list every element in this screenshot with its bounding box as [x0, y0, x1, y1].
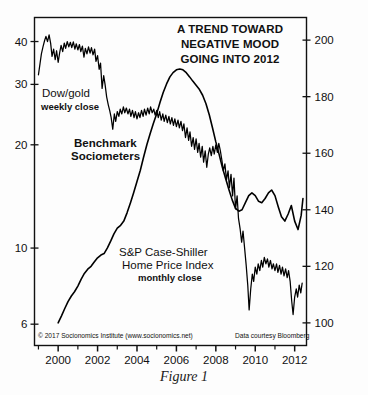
chart-title-line-1: A TREND TOWARD	[177, 23, 283, 35]
chart-title-line-2: NEGATIVE MOOD	[181, 38, 279, 50]
label-case-shiller-sub: monthly close	[138, 272, 202, 283]
right-tick-label-100: 100	[315, 317, 334, 329]
right-tick-label-120: 120	[315, 260, 334, 272]
label-benchmark-line2: Sociometers	[71, 150, 140, 162]
label-dow-gold-sub: weekly close	[40, 101, 99, 112]
x-tick-label-2004: 2004	[124, 354, 150, 366]
right-tick-label-180: 180	[315, 91, 334, 103]
label-case-shiller-line1: S&P Case-Shiller	[119, 246, 208, 258]
figure-caption: Figure 1	[0, 369, 368, 385]
footer-copyright: © 2017 Socionomics Institute (www.socion…	[38, 332, 193, 340]
plot-frame	[35, 18, 307, 346]
right-tick-label-160: 160	[315, 147, 334, 159]
footer-data-source: Data courtesy Bloomberg	[235, 332, 310, 340]
left-tick-label-20: 20	[15, 139, 28, 151]
left-tick-label-6: 6	[21, 318, 27, 330]
x-tick-label-2012: 2012	[282, 354, 308, 366]
label-dow-gold-name: Dow/gold	[42, 87, 90, 99]
socionomics-chart: 403020106 200180160140120100 20002002200…	[0, 0, 368, 395]
x-tick-label-2010: 2010	[242, 354, 268, 366]
left-tick-label-10: 10	[15, 242, 28, 254]
label-benchmark-line1: Benchmark	[74, 137, 137, 149]
right-tick-label-200: 200	[315, 34, 334, 46]
left-tick-label-40: 40	[15, 36, 28, 48]
left-tick-label-30: 30	[15, 78, 28, 90]
label-case-shiller-line2: Home Price Index	[122, 259, 214, 271]
x-axis-ticks: 2000200220042006200820102012	[38, 346, 307, 366]
figure-container: 403020106 200180160140120100 20002002200…	[0, 0, 368, 395]
x-tick-label-2000: 2000	[45, 354, 71, 366]
chart-title-line-3: GOING INTO 2012	[180, 53, 279, 65]
x-tick-label-2008: 2008	[203, 354, 229, 366]
x-tick-label-2002: 2002	[85, 354, 111, 366]
x-tick-label-2006: 2006	[164, 354, 190, 366]
right-tick-label-140: 140	[315, 204, 334, 216]
